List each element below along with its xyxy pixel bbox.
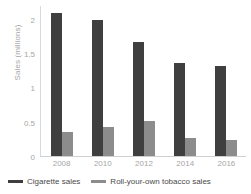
bar-chart: Sales (millions) 00.511.52 2008201020122… [0,0,251,194]
y-tick-label: 2 [5,15,35,24]
bar-group [123,6,164,156]
bar[interactable] [103,127,114,156]
bar[interactable] [144,121,155,156]
x-axis-ticks: 20082010201220142016 [41,159,247,168]
legend-item[interactable]: Cigarette sales [8,177,80,186]
y-tick-label: 1.5 [5,50,35,59]
plot-area: 00.511.52 [40,6,246,157]
legend-swatch-icon [91,180,106,183]
bar-group [41,6,82,156]
legend-item[interactable]: Roll-your-own tobacco sales [91,177,211,186]
bar[interactable] [226,140,237,156]
y-tick-label: 0 [5,153,35,162]
legend-swatch-icon [8,180,23,183]
bar[interactable] [133,42,144,156]
y-tick-label: 1 [5,84,35,93]
bar[interactable] [174,63,185,156]
x-tick-label: 2012 [123,159,164,168]
chart-legend: Cigarette salesRoll-your-own tobacco sal… [8,177,246,186]
x-tick-label: 2008 [41,159,82,168]
x-axis-line [40,156,246,157]
bar[interactable] [62,132,73,156]
bar[interactable] [51,13,62,156]
bar[interactable] [185,138,196,156]
y-tick-label: 0.5 [5,118,35,127]
x-tick-label: 2014 [165,159,206,168]
bar-group [164,6,205,156]
bar-group [82,6,123,156]
legend-label: Cigarette sales [27,177,80,186]
bar-group [205,6,246,156]
x-tick-label: 2010 [82,159,123,168]
bar[interactable] [92,20,103,156]
x-tick-label: 2016 [206,159,247,168]
bar-groups [41,6,246,156]
legend-label: Roll-your-own tobacco sales [110,177,211,186]
bar[interactable] [215,66,226,156]
